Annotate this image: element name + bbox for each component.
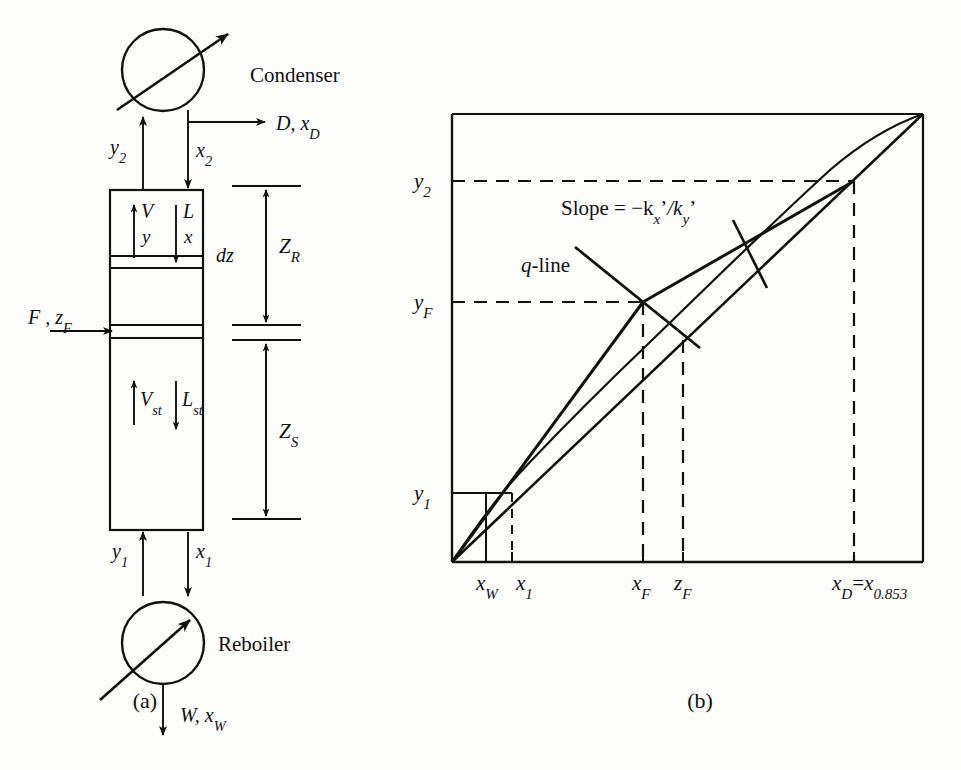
slope-annotation: Slope = −kx’/ky’ [561, 196, 696, 227]
y2-axis-label: y2 [412, 169, 431, 200]
mccabe-thiele-plot: y2 yF y1 xW x1 xF zF xD=x0.853 Slope = −… [412, 114, 923, 713]
rect-liquid-label: L [182, 200, 194, 222]
feed-label: F , zF [27, 306, 72, 336]
distillate-label: D, xD [275, 112, 320, 142]
vapor-to-condenser-label: y2 [108, 136, 126, 166]
q-line [575, 247, 700, 348]
strip-vapor-label: Vst [140, 388, 163, 418]
xf-axis-label: xF [631, 571, 651, 602]
zs-label: ZS [279, 419, 299, 450]
boilup-vapor-label: y1 [110, 540, 128, 570]
xw-axis-label: xW [475, 571, 499, 602]
stripping-operating-line [452, 302, 643, 562]
rect-liquid-comp-label: x [183, 226, 193, 247]
dz-label: dz [216, 244, 234, 266]
figure-container: Condenser D, xD y2 x2 V y L x F , zF Vst… [0, 0, 961, 770]
q-line-annotation: q-line [521, 253, 570, 277]
panel-a-caption: (a) [133, 688, 157, 713]
x1-axis-label: x1 [515, 571, 533, 602]
xd-axis-label: xD=x0.853 [831, 571, 908, 602]
bottoms-label: W, xW [180, 704, 228, 734]
reflux-to-column-label: x2 [195, 139, 212, 169]
column-flowsheet: Condenser D, xD y2 x2 V y L x F , zF Vst… [27, 29, 340, 735]
zr-label: ZR [279, 234, 300, 265]
y1-axis-label: y1 [412, 481, 431, 512]
yf-axis-label: yF [412, 290, 433, 321]
condenser-duty-arrow [117, 34, 228, 110]
bottoms-to-reboiler-label: x1 [195, 540, 212, 570]
zf-axis-label: zF [673, 571, 692, 602]
rect-vapor-label: V [141, 200, 156, 222]
strip-liquid-label: Lst [181, 388, 204, 418]
condenser-label: Condenser [250, 63, 340, 87]
rect-vapor-comp-label: y [140, 226, 151, 247]
reboiler-label: Reboiler [218, 632, 290, 656]
panel-b-caption: (b) [687, 688, 713, 713]
figure-canvas: Condenser D, xD y2 x2 V y L x F , zF Vst… [0, 0, 961, 770]
